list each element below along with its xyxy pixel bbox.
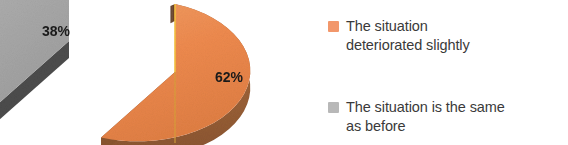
pie-chart-svg: 62% 38% (0, 0, 300, 145)
legend-swatch-gray-icon (328, 102, 339, 113)
legend-label-situation-deteriorated: The situationdeteriorated slightly (346, 17, 470, 55)
pie-slice-gray: 38% (0, 0, 71, 123)
legend-label-line2: deteriorated slightly (346, 37, 470, 53)
chart-legend: The situationdeteriorated slightly The s… (322, 0, 568, 145)
pie-chart-figure: 62% 38% The situationde (0, 0, 568, 145)
legend-label-situation-same: The situation is the sameas before (346, 98, 505, 136)
legend-item-situation-deteriorated[interactable]: The situationdeteriorated slightly (328, 17, 470, 55)
pie-label-orange: 62% (215, 69, 244, 85)
pie-chart-plot-area: 62% 38% (0, 0, 300, 145)
legend-item-situation-same[interactable]: The situation is the sameas before (328, 98, 505, 136)
legend-label-line1: The situation (346, 18, 428, 34)
legend-swatch-orange-icon (328, 21, 339, 32)
pie-label-gray: 38% (42, 23, 71, 39)
legend-label-line1: The situation is the same (346, 99, 505, 115)
pie-notch-shadow (170, 5, 172, 23)
pie-slice-orange: 62% (101, 4, 250, 145)
legend-label-line2: as before (346, 118, 406, 134)
